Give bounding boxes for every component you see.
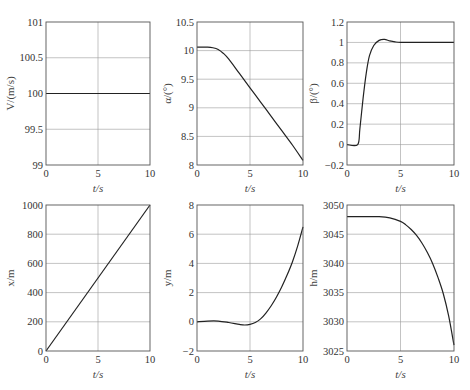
x-tick-label: 5 bbox=[398, 354, 403, 365]
y-tick-label: 0.4 bbox=[331, 98, 345, 109]
y-tick-label: 100 bbox=[27, 88, 43, 99]
y-tick-label: 8 bbox=[189, 160, 194, 171]
y-tick-label: 3040 bbox=[323, 258, 344, 269]
y-axis-label: y/m bbox=[161, 269, 173, 287]
x-axis-label: t/s bbox=[93, 182, 103, 194]
x-axis-label: t/s bbox=[245, 182, 255, 194]
y-tick-label: −0.2 bbox=[325, 160, 344, 171]
y-tick-label: 0.8 bbox=[331, 57, 344, 68]
x-tick-label: 5 bbox=[247, 354, 252, 365]
y-tick-label: 6 bbox=[189, 229, 194, 240]
y-tick-label: 3025 bbox=[323, 346, 344, 357]
x-axis-label: t/s bbox=[395, 182, 405, 194]
x-tick-label: 10 bbox=[449, 354, 460, 365]
y-axis-label: h/m bbox=[307, 269, 319, 287]
x-tick-label: 10 bbox=[298, 168, 309, 179]
x-tick-label: 10 bbox=[145, 168, 156, 179]
x-axis-label: t/s bbox=[395, 368, 405, 380]
y-tick-label: 0 bbox=[339, 139, 344, 150]
x-tick-label: 0 bbox=[344, 354, 349, 365]
y-axis-label: β/(°) bbox=[307, 83, 320, 104]
y-tick-label: 8 bbox=[189, 200, 194, 211]
y-tick-label: 0 bbox=[38, 346, 43, 357]
x-tick-label: 5 bbox=[247, 168, 252, 179]
y-tick-label: 400 bbox=[27, 287, 43, 298]
y-tick-label: 3050 bbox=[323, 200, 344, 211]
y-tick-label: 1000 bbox=[22, 200, 43, 211]
x-tick-label: 10 bbox=[298, 354, 309, 365]
x-tick-label: 10 bbox=[449, 168, 460, 179]
x-tick-label: 5 bbox=[95, 168, 100, 179]
y-tick-label: 600 bbox=[27, 258, 43, 269]
y-tick-label: 10.5 bbox=[176, 17, 194, 28]
y-tick-label: 3030 bbox=[323, 316, 344, 327]
y-tick-label: 10 bbox=[184, 45, 195, 56]
y-tick-label: 0 bbox=[189, 316, 194, 327]
y-tick-label: 800 bbox=[27, 229, 43, 240]
y-tick-label: −2 bbox=[183, 346, 194, 357]
x-tick-label: 5 bbox=[95, 354, 100, 365]
y-tick-label: 3035 bbox=[323, 287, 344, 298]
subplot-V: 05109999.5100100.5101t/sV/(m/s) bbox=[4, 17, 155, 195]
y-tick-label: 4 bbox=[189, 258, 195, 269]
x-tick-label: 0 bbox=[344, 168, 349, 179]
gridlines bbox=[197, 22, 303, 165]
subplot-x: 051002004006008001000t/sx/m bbox=[4, 200, 155, 381]
y-tick-label: 1 bbox=[339, 37, 344, 48]
y-tick-label: 200 bbox=[27, 316, 43, 327]
y-tick-label: 0.6 bbox=[331, 78, 344, 89]
x-tick-label: 0 bbox=[43, 168, 48, 179]
subplot-h: 0510302530303035304030453050t/sh/m bbox=[307, 200, 459, 381]
y-axis-label: V/(m/s) bbox=[4, 76, 17, 111]
y-tick-label: 1.2 bbox=[331, 17, 344, 28]
x-axis-label: t/s bbox=[245, 368, 255, 380]
y-tick-label: 2 bbox=[189, 287, 194, 298]
y-axis-label: α/(°) bbox=[161, 83, 174, 104]
y-tick-label: 99 bbox=[33, 160, 44, 171]
y-tick-label: 9.5 bbox=[181, 74, 194, 85]
y-tick-label: 100.5 bbox=[19, 52, 43, 63]
x-tick-label: 0 bbox=[194, 354, 199, 365]
subplot-y: 0510−202468t/sy/m bbox=[161, 200, 308, 381]
subplot-beta: 0510−0.200.20.40.60.811.2t/sβ/(°) bbox=[307, 17, 459, 195]
figure: 05109999.5100100.5101t/sV/(m/s)051088.59… bbox=[0, 0, 470, 390]
gridlines bbox=[197, 205, 303, 351]
x-tick-label: 0 bbox=[43, 354, 48, 365]
y-axis-label: x/m bbox=[4, 269, 16, 287]
y-tick-label: 99.5 bbox=[25, 124, 43, 135]
x-tick-label: 0 bbox=[194, 168, 199, 179]
y-tick-label: 3045 bbox=[323, 229, 344, 240]
y-tick-label: 0.2 bbox=[331, 119, 344, 130]
x-tick-label: 10 bbox=[145, 354, 156, 365]
x-axis-label: t/s bbox=[93, 368, 103, 380]
x-tick-label: 5 bbox=[398, 168, 403, 179]
y-tick-label: 8.5 bbox=[181, 131, 194, 142]
y-tick-label: 9 bbox=[189, 102, 194, 113]
subplot-alpha: 051088.599.51010.5t/sα/(°) bbox=[161, 17, 308, 195]
y-tick-label: 101 bbox=[27, 17, 43, 28]
